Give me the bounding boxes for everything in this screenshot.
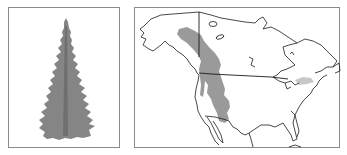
conifer-tree-icon [9,8,121,149]
range-map-panel [134,7,340,148]
tree-illustration-panel [8,7,120,148]
north-america-map [135,8,341,149]
